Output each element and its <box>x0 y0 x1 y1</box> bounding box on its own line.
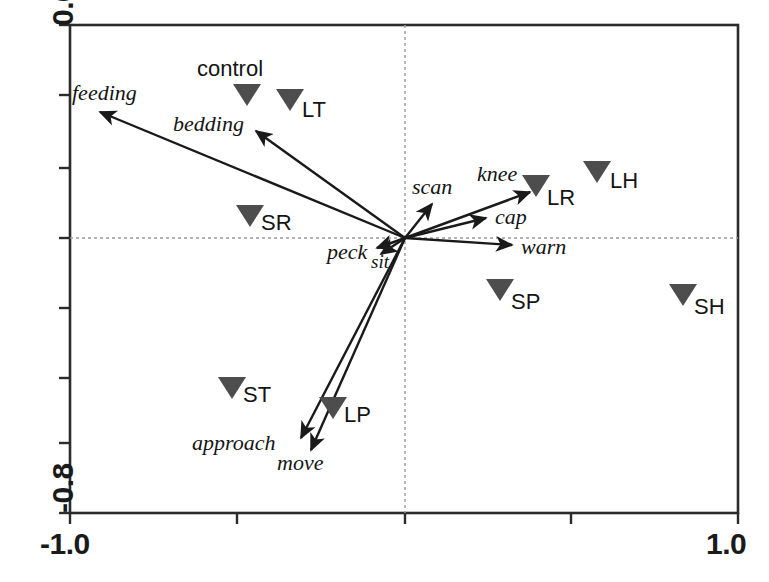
x-axis-ticks <box>70 513 738 524</box>
variable-label-scan: scan <box>412 176 452 198</box>
variable-label-warn: warn <box>521 236 566 258</box>
site-label-control: control <box>197 58 263 80</box>
variable-label-sit: sit <box>371 252 389 271</box>
marker-lh <box>583 161 611 183</box>
marker-lp <box>319 397 347 419</box>
plot-frame <box>70 25 738 513</box>
y-axis-ticks <box>59 25 70 513</box>
site-label-st: ST <box>243 384 271 406</box>
variable-label-approach: approach <box>192 432 276 454</box>
site-label-lt: LT <box>302 99 326 121</box>
zero-gridlines <box>70 25 738 513</box>
marker-sp <box>486 279 514 301</box>
y-axis-label-bottom: -0.8 <box>46 463 80 513</box>
variable-label-cap: cap <box>495 206 527 228</box>
marker-st <box>218 377 246 399</box>
variable-label-bedding: bedding <box>173 113 244 135</box>
variable-label-knee: knee <box>477 163 517 185</box>
variable-label-peck: peck <box>327 241 367 263</box>
vector-warn <box>405 238 512 245</box>
marker-sh <box>669 284 697 306</box>
marker-lt <box>276 89 304 111</box>
x-axis-label-left: -1.0 <box>40 527 90 561</box>
site-label-lp: LP <box>344 404 371 426</box>
site-label-sh: SH <box>694 296 725 318</box>
marker-sr <box>236 205 264 227</box>
marker-control <box>233 84 261 106</box>
site-label-sp: SP <box>511 291 540 313</box>
site-label-lh: LH <box>610 170 638 192</box>
biplot-figure: 0.6 -0.8 -1.0 1.0 control LT SR LR LH SP… <box>0 0 769 582</box>
x-axis-label-right: 1.0 <box>706 527 746 561</box>
site-markers <box>218 84 697 419</box>
variable-label-move: move <box>277 452 323 474</box>
variable-vectors <box>100 112 530 450</box>
variable-label-feeding: feeding <box>72 82 137 104</box>
site-label-sr: SR <box>261 212 292 234</box>
site-label-lr: LR <box>547 187 575 209</box>
y-axis-label-top: 0.6 <box>46 0 80 26</box>
frame-rect <box>70 25 738 513</box>
